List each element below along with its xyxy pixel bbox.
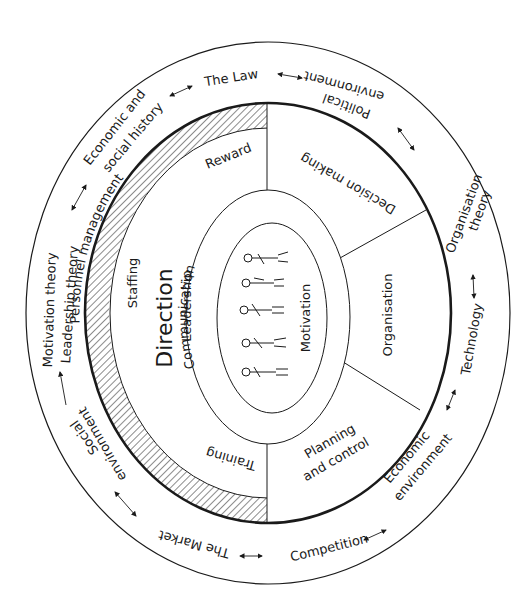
motivation-theory-label: Motivation theory (40, 252, 59, 368)
decision-making-label: Decision making (297, 150, 398, 217)
the-market-label: The Market (157, 528, 232, 562)
the-law-label: The Law (202, 66, 259, 90)
training-label: Training (204, 445, 258, 474)
motivation-label: Motivation (298, 284, 313, 352)
management-model-diagram: Communication Motivation Direction Leade… (0, 0, 528, 614)
organisation-segment-label: Organisation (380, 273, 395, 356)
reward-label: Reward (203, 140, 254, 172)
direction-title: Direction (152, 268, 177, 367)
competition-label: Competition (288, 531, 369, 565)
technology-label: Technology (458, 302, 486, 378)
leadership-label: Leadership (179, 270, 194, 341)
staffing-label: Staffing (125, 258, 140, 308)
segment-divider-2 (340, 360, 420, 410)
segment-divider-1 (340, 210, 426, 258)
